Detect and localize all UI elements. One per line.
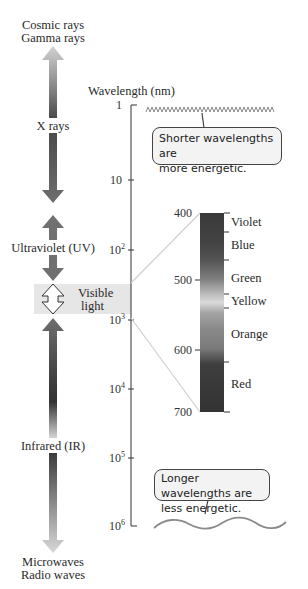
label-visible: Visible: [78, 286, 118, 300]
tick-exponent: 3: [121, 312, 125, 321]
color-label-red: Red: [231, 378, 251, 391]
axis-tick-10e6: 106: [95, 520, 125, 532]
color-label-violet: Violet: [231, 216, 262, 229]
short-wave-icon: [146, 107, 274, 112]
long-wave-icon: [154, 518, 286, 529]
callout-longer-wavelengths: Longer wavelengths are less energetic.: [154, 469, 270, 501]
label-cosmic-rays: Cosmic rays: [8, 18, 98, 32]
label-x-rays: X rays: [33, 119, 73, 133]
label-light: light: [81, 299, 121, 313]
color-label-yellow: Yellow: [231, 295, 267, 308]
color-label-green: Green: [231, 272, 262, 285]
callout-pointer-short: [202, 113, 204, 128]
callout-short-line1: Shorter wavelengths are: [159, 131, 275, 161]
tick-exponent: 6: [121, 518, 125, 527]
tick-base: 10: [109, 313, 121, 327]
callout-short-line2: more energetic.: [159, 161, 275, 176]
label-infrared: Infrared (IR): [18, 439, 88, 453]
color-label-blue: Blue: [231, 239, 255, 252]
callout-long-line1: Longer wavelengths are: [161, 471, 263, 501]
guide-line-bottom: [131, 318, 200, 412]
spectrum-tick-400: 400: [162, 207, 192, 219]
tick-exponent: 2: [121, 242, 125, 251]
tick-base: 10: [110, 173, 122, 187]
tick-exponent: 4: [121, 381, 125, 390]
arrow-up-gamma-icon: [42, 46, 64, 118]
axis-tick-10: 10: [92, 174, 122, 186]
axis-tick-10e3: 103: [95, 314, 125, 326]
spectrum-tick-500: 500: [162, 274, 192, 286]
arrow-up-infrared-icon: [42, 318, 64, 438]
axis-tick-10e2: 102: [95, 244, 125, 256]
label-ultraviolet: Ultraviolet (UV): [8, 241, 98, 255]
label-microwaves: Microwaves: [8, 555, 98, 569]
tick-base: 10: [109, 519, 121, 533]
spectrum-tick-600: 600: [162, 344, 192, 356]
tick-base: 10: [109, 451, 121, 465]
spectrum-tick-700: 700: [162, 406, 192, 418]
tick-base: 1: [116, 98, 122, 112]
callout-long-line2: less energetic.: [161, 501, 263, 516]
arrow-down-xray-icon: [42, 133, 64, 203]
axis-tick-10e4: 104: [95, 383, 125, 395]
visible-spectrum-bar: [200, 213, 224, 412]
color-label-orange: Orange: [231, 328, 268, 341]
arrow-down-uv-icon: [42, 255, 64, 281]
tick-base: 10: [109, 243, 121, 257]
wavelength-axis: [128, 105, 137, 526]
axis-title: Wavelength (nm): [88, 84, 175, 98]
arrow-up-uv-icon: [42, 215, 64, 240]
tick-base: 10: [109, 382, 121, 396]
label-radio-waves: Radio waves: [8, 568, 98, 582]
label-gamma-rays: Gamma rays: [8, 31, 98, 45]
arrow-down-radio-icon: [42, 452, 64, 553]
axis-tick-1: 1: [92, 99, 122, 111]
axis-tick-10e5: 105: [95, 452, 125, 464]
callout-shorter-wavelengths: Shorter wavelengths are more energetic.: [152, 127, 282, 165]
tick-exponent: 5: [121, 450, 125, 459]
